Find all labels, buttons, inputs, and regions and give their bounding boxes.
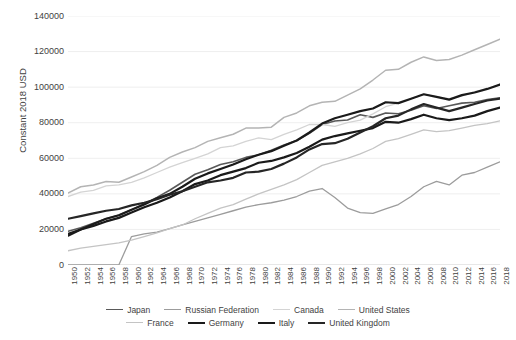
x-tick-label: 1990	[325, 267, 333, 285]
legend-swatch-icon	[188, 322, 205, 324]
x-tick-label: 1954	[97, 267, 105, 285]
legend-item[interactable]: Japan	[106, 305, 150, 315]
legend-item[interactable]: Italy	[258, 318, 295, 328]
x-tick-label: 1974	[224, 267, 232, 285]
x-tick-label: 2008	[440, 267, 448, 285]
y-tick-label: 140000	[4, 12, 64, 21]
y-tick-label: 40000	[4, 189, 64, 198]
series-line	[68, 162, 500, 265]
x-tick-label: 1984	[287, 267, 295, 285]
x-tick-label: 1958	[122, 267, 130, 285]
x-tick-label: 1950	[71, 267, 79, 285]
x-tick-label: 1994	[351, 267, 359, 285]
x-tick-label: 1972	[211, 267, 219, 285]
legend-item[interactable]: United Kingdom	[308, 318, 389, 328]
x-tick-label: 1964	[160, 267, 168, 285]
legend-label: Canada	[294, 305, 324, 315]
legend-item[interactable]: United States	[338, 305, 410, 315]
x-tick-label: 1978	[249, 267, 257, 285]
x-tick-label: 2018	[503, 267, 511, 285]
x-tick-label: 2004	[414, 267, 422, 285]
legend-swatch-icon	[258, 322, 275, 324]
x-tick-label: 2006	[427, 267, 435, 285]
legend-row: JapanRussian FederationCanadaUnited Stat…	[0, 303, 516, 316]
y-tick-label: 100000	[4, 83, 64, 92]
legend-swatch-icon	[308, 322, 325, 324]
chart-title	[0, 0, 516, 11]
legend-swatch-icon	[164, 309, 181, 310]
x-tick-label: 1970	[198, 267, 206, 285]
line-chart: Constant 2018 USD 0200004000060000800001…	[0, 0, 516, 340]
x-tick-label: 1996	[363, 267, 371, 285]
x-tick-label: 1966	[173, 267, 181, 285]
legend-label: France	[147, 318, 173, 328]
x-tick-label: 2000	[389, 267, 397, 285]
legend-swatch-icon	[126, 322, 143, 323]
series-line	[68, 84, 500, 196]
x-tick-label: 2002	[402, 267, 410, 285]
plot-area	[68, 16, 500, 265]
chart-legend: JapanRussian FederationCanadaUnited Stat…	[0, 303, 516, 329]
x-tick-label: 2012	[465, 267, 473, 285]
x-tick-label: 2016	[490, 267, 498, 285]
x-tick-label: 1952	[84, 267, 92, 285]
legend-label: Japan	[127, 305, 150, 315]
x-tick-label: 1956	[109, 267, 117, 285]
y-axis-ticks: 020000400006000080000100000120000140000	[0, 0, 64, 340]
x-tick-label: 1982	[274, 267, 282, 285]
legend-item[interactable]: France	[126, 318, 173, 328]
series-line	[68, 39, 500, 193]
y-tick-label: 0	[4, 261, 64, 270]
x-tick-label: 2014	[478, 267, 486, 285]
x-tick-label: 1988	[313, 267, 321, 285]
x-tick-label: 1962	[147, 267, 155, 285]
y-tick-label: 60000	[4, 154, 64, 163]
x-tick-label: 1968	[186, 267, 194, 285]
legend-item[interactable]: Canada	[273, 305, 324, 315]
x-tick-label: 1960	[135, 267, 143, 285]
legend-swatch-icon	[106, 309, 123, 310]
y-tick-label: 20000	[4, 225, 64, 234]
legend-swatch-icon	[273, 309, 290, 310]
x-tick-label: 1992	[338, 267, 346, 285]
x-tick-label: 1986	[300, 267, 308, 285]
legend-item[interactable]: Germany	[188, 318, 244, 328]
x-axis-ticks: 1950195219541956195819601962196419661968…	[68, 267, 500, 307]
y-tick-label: 80000	[4, 118, 64, 127]
series-line	[68, 108, 500, 234]
series-line	[68, 121, 500, 251]
legend-label: United States	[359, 305, 410, 315]
x-tick-label: 1976	[236, 267, 244, 285]
legend-row: FranceGermanyItalyUnited Kingdom	[0, 316, 516, 329]
legend-swatch-icon	[338, 309, 355, 310]
x-tick-label: 1980	[262, 267, 270, 285]
legend-label: Germany	[209, 318, 244, 328]
legend-label: Russian Federation	[185, 305, 259, 315]
y-tick-label: 120000	[4, 47, 64, 56]
plot-svg	[68, 16, 500, 265]
x-tick-label: 2010	[452, 267, 460, 285]
x-tick-label: 1998	[376, 267, 384, 285]
legend-label: United Kingdom	[329, 318, 389, 328]
legend-label: Italy	[279, 318, 295, 328]
legend-item[interactable]: Russian Federation	[164, 305, 259, 315]
